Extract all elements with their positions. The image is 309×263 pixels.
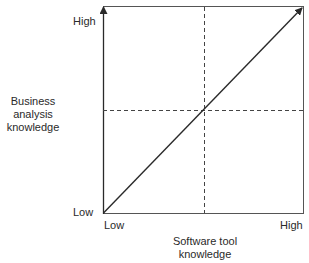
x-axis-title-line-1: Software tool: [150, 235, 260, 248]
y-axis-title: Business analysis knowledge: [0, 95, 66, 134]
x-axis-title-line-2: knowledge: [150, 248, 260, 261]
y-axis-title-line-3: knowledge: [0, 121, 66, 134]
y-axis-title-line-1: Business: [0, 95, 66, 108]
x-axis-low-label: Low: [104, 219, 124, 232]
y-axis-high-label: High: [73, 15, 96, 28]
y-axis-title-line-2: analysis: [0, 108, 66, 121]
y-axis-low-label: Low: [73, 206, 93, 219]
x-axis-title: Software tool knowledge: [150, 235, 260, 261]
x-axis-high-label: High: [280, 219, 303, 232]
